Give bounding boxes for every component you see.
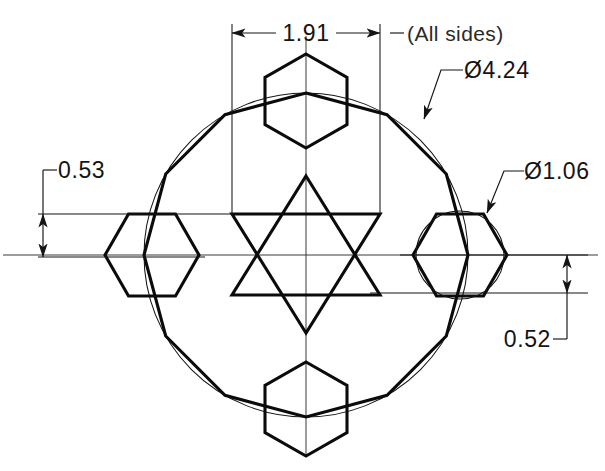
- cad-drawing-svg: 1.91 (All sides) Ø4.24 Ø1.06 0.53: [0, 0, 605, 471]
- dimension-text-1-91: 1.91: [282, 20, 329, 46]
- technical-drawing-canvas: 1.91 (All sides) Ø4.24 Ø1.06 0.53: [0, 0, 605, 471]
- note-text-all-sides: (All sides): [407, 22, 504, 45]
- dimension-text-0-52: 0.52: [504, 326, 551, 352]
- leader-line-1-06: [487, 171, 524, 213]
- dimension-text-4-24: Ø4.24: [464, 57, 530, 83]
- center-lines: [3, 36, 598, 456]
- dimension-diameter-1-06: Ø1.06: [487, 158, 590, 213]
- dimension-0-52: 0.52: [370, 255, 588, 352]
- dimension-0-53: 0.53: [38, 157, 232, 257]
- dimension-diameter-4-24: Ø4.24: [424, 57, 530, 119]
- dimension-text-1-06: Ø1.06: [524, 158, 590, 184]
- leader-line-4-24: [424, 70, 463, 119]
- note-all-sides: (All sides): [390, 22, 504, 45]
- dimension-text-0-53: 0.53: [58, 157, 105, 183]
